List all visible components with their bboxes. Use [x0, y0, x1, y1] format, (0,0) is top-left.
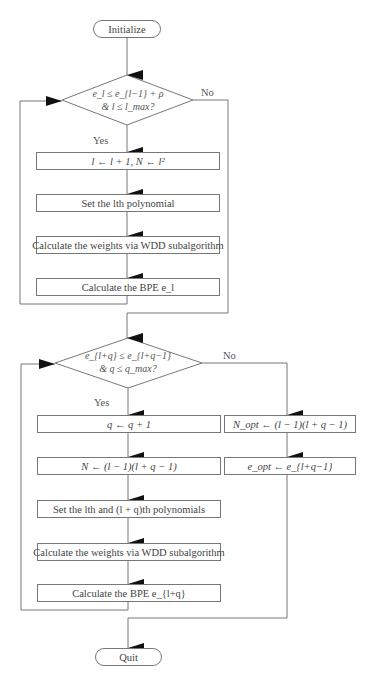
nopt-box: N_opt ← (l − 1)(l + q − 1): [224, 415, 356, 433]
decision-1-condition-2: & l ≤ l_max?: [72, 100, 184, 113]
nopt-label: N_opt ← (l − 1)(l + q − 1): [233, 419, 347, 430]
set-polynomials-label: Set the lth and (l + q)th polynomials: [53, 504, 205, 515]
eopt-box: e_opt ← e_{l+q−1}: [224, 457, 356, 475]
calc-bpe-lq-box: Calculate the BPE e_{l+q}: [37, 584, 221, 602]
set-polynomials-box: Set the lth and (l + q)th polynomials: [37, 500, 221, 518]
update-l-label: l ← l + 1, N ← l²: [91, 156, 164, 167]
decision-2-condition-1: e_{l+q} ≤ e_{l+q−1}: [70, 349, 186, 362]
decision-2: e_{l+q} ≤ e_{l+q−1} & q ≤ q_max?: [70, 349, 186, 375]
calc-weights-box-2: Calculate the weights via WDD subalgorit…: [37, 543, 221, 561]
update-n-box: N ← (l − 1)(l + q − 1): [37, 457, 221, 475]
update-n-label: N ← (l − 1)(l + q − 1): [81, 461, 176, 472]
yes-label-2: Yes: [94, 397, 109, 408]
set-lth-polynomial-box: Set the lth polynomial: [36, 194, 220, 212]
set-lth-polynomial-label: Set the lth polynomial: [81, 198, 174, 209]
quit-terminal: Quit: [95, 648, 162, 666]
calc-weights-box-1: Calculate the weights via WDD subalgorit…: [36, 236, 220, 254]
calc-bpe-lq-label: Calculate the BPE e_{l+q}: [72, 588, 186, 599]
decision-2-condition-2: & q ≤ q_max?: [70, 362, 186, 375]
no-label-2: No: [223, 350, 236, 361]
flow-connectors: [0, 0, 370, 679]
initialize-terminal: Initialize: [93, 20, 161, 38]
update-q-label: q ← q + 1: [107, 419, 151, 430]
calc-bpe-l-label: Calculate the BPE e_l: [82, 282, 174, 293]
quit-label: Quit: [119, 652, 138, 663]
calc-weights-label-1: Calculate the weights via WDD subalgorit…: [32, 240, 223, 251]
decision-1: e_l ≤ e_{l−1} + ρ & l ≤ l_max?: [72, 87, 184, 113]
update-q-box: q ← q + 1: [37, 415, 221, 433]
update-l-box: l ← l + 1, N ← l²: [36, 152, 220, 170]
no-label-1: No: [201, 87, 214, 98]
calc-weights-label-2: Calculate the weights via WDD subalgorit…: [33, 547, 224, 558]
yes-label-1: Yes: [93, 135, 108, 146]
initialize-label: Initialize: [108, 24, 145, 35]
eopt-label: e_opt ← e_{l+q−1}: [248, 461, 333, 472]
decision-1-condition-1: e_l ≤ e_{l−1} + ρ: [72, 87, 184, 100]
calc-bpe-l-box: Calculate the BPE e_l: [36, 278, 220, 296]
